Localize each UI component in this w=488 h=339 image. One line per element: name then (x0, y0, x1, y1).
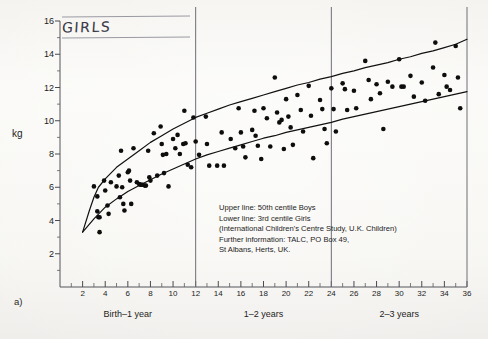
x-tick-label: 10 (169, 289, 178, 298)
x-tick-label: 14 (214, 289, 223, 298)
y-tick-label: 10 (34, 116, 54, 126)
handwritten-girls-title: GIRLS (61, 19, 111, 36)
y-tick-label: 16 (34, 16, 54, 26)
x-tick-label: 24 (327, 289, 336, 298)
x-tick-label: 22 (304, 289, 313, 298)
annotation-line-2: Lower line: 3rd centile Girls (219, 214, 397, 225)
x-tick-label: 8 (148, 289, 152, 298)
y-tick-label: 12 (34, 83, 54, 93)
x-tick-label: 18 (259, 289, 268, 298)
y-tick-label: 2 (34, 249, 54, 259)
annotation-line-3: (International Children's Centre Study, … (219, 224, 397, 235)
legend-annotation-block: Upper line: 50th centile Boys Lower line… (219, 203, 397, 256)
x-tick-label: 26 (349, 289, 358, 298)
y-tick-label: 4 (34, 216, 54, 226)
x-tick-label: 34 (440, 289, 449, 298)
y-tick-label: 14 (34, 49, 54, 59)
age-section-label: 2–3 years (379, 309, 419, 319)
panel-label: a) (14, 296, 22, 307)
x-tick-label: 36 (463, 289, 472, 298)
x-tick-label: 4 (103, 289, 107, 298)
annotation-line-1: Upper line: 50th centile Boys (219, 203, 397, 214)
annotation-line-5: St Albans, Herts, UK. (219, 245, 397, 256)
x-tick-label: 16 (236, 289, 245, 298)
age-section-label: Birth–1 year (104, 309, 153, 319)
age-section-label: 1–2 years (244, 309, 284, 319)
x-tick-label: 30 (395, 289, 404, 298)
x-tick-label: 20 (282, 289, 291, 298)
x-tick-label: 28 (372, 289, 381, 298)
x-tick-label: 2 (80, 289, 84, 298)
y-axis-title: kg (12, 128, 23, 139)
annotation-line-4: Further information: TALC, PO Box 49, (219, 235, 397, 246)
x-tick-label: 6 (126, 289, 130, 298)
figure-page: kg GIRLS a) Upper line: 50th centile Boy… (0, 0, 488, 339)
y-tick-label: 6 (34, 182, 54, 192)
y-tick-label: 8 (34, 149, 54, 159)
x-tick-label: 12 (191, 289, 200, 298)
x-tick-label: 32 (417, 289, 426, 298)
